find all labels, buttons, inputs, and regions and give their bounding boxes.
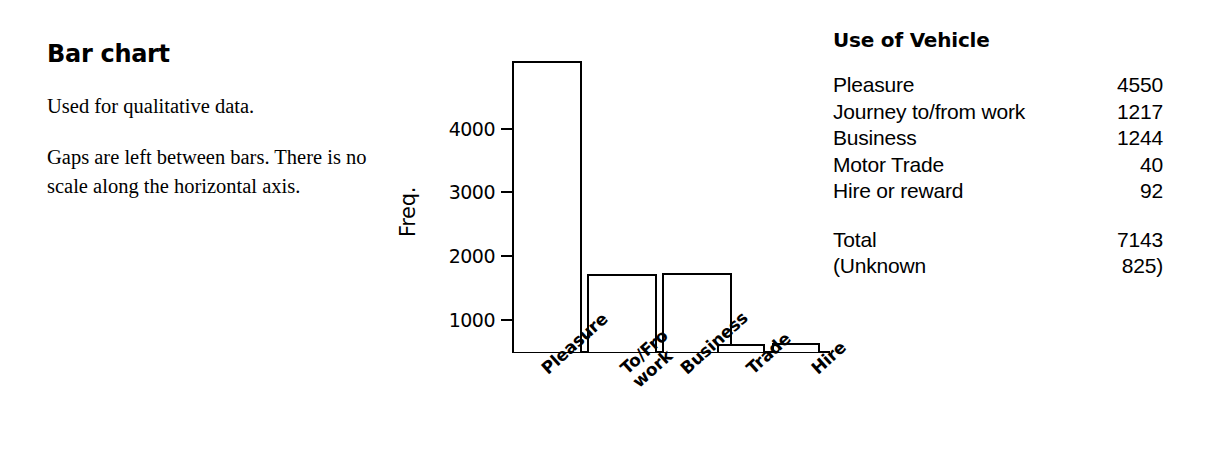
table-row: Journey to/from work 1217: [833, 99, 1163, 126]
row-value: 825): [1055, 253, 1163, 280]
page-title: Bar chart: [47, 42, 397, 66]
row-label: Pleasure: [833, 72, 1055, 99]
bar-chart: Freq. 1000 2000 3000 4000 Pleasure To/Fr…: [405, 30, 845, 450]
row-value: 4550: [1055, 72, 1163, 99]
y-tick-label-3000: 3000: [449, 181, 495, 203]
table-divider: [833, 205, 1163, 227]
explanation-paragraph-1: Used for qualitative data.: [47, 92, 397, 121]
table-row: Motor Trade 40: [833, 152, 1163, 179]
table-title: Use of Vehicle: [833, 28, 1163, 52]
table-row: Business 1244: [833, 125, 1163, 152]
use-of-vehicle-table: Use of Vehicle Pleasure 4550 Journey to/…: [833, 28, 1163, 280]
explanation-paragraph-2: Gaps are left between bars. There is no …: [47, 143, 397, 201]
y-tick-label-1000: 1000: [449, 309, 495, 331]
row-value: 1244: [1055, 125, 1163, 152]
row-label: Business: [833, 125, 1055, 152]
row-value: 1217: [1055, 99, 1163, 126]
table-row: Hire or reward 92: [833, 178, 1163, 205]
row-value: 92: [1055, 178, 1163, 205]
row-label: Total: [833, 227, 1055, 254]
row-label: Hire or reward: [833, 178, 1055, 205]
row-value: 7143: [1055, 227, 1163, 254]
y-tick-label-4000: 4000: [449, 118, 495, 140]
explanation-panel: Bar chart Used for qualitative data. Gap…: [47, 42, 397, 201]
row-value: 40: [1055, 152, 1163, 179]
row-label: (Unknown: [833, 253, 1055, 280]
row-label: Motor Trade: [833, 152, 1055, 179]
y-axis-tick-labels: 1000 2000 3000 4000: [405, 30, 495, 352]
table-row-unknown: (Unknown 825): [833, 253, 1163, 280]
row-label: Journey to/from work: [833, 99, 1055, 126]
bar-pleasure: [512, 61, 582, 352]
y-tick-label-2000: 2000: [449, 245, 495, 267]
table-row: Pleasure 4550: [833, 72, 1163, 99]
x-tick-label-trade: Trade: [743, 329, 794, 377]
table-row-total: Total 7143: [833, 227, 1163, 254]
